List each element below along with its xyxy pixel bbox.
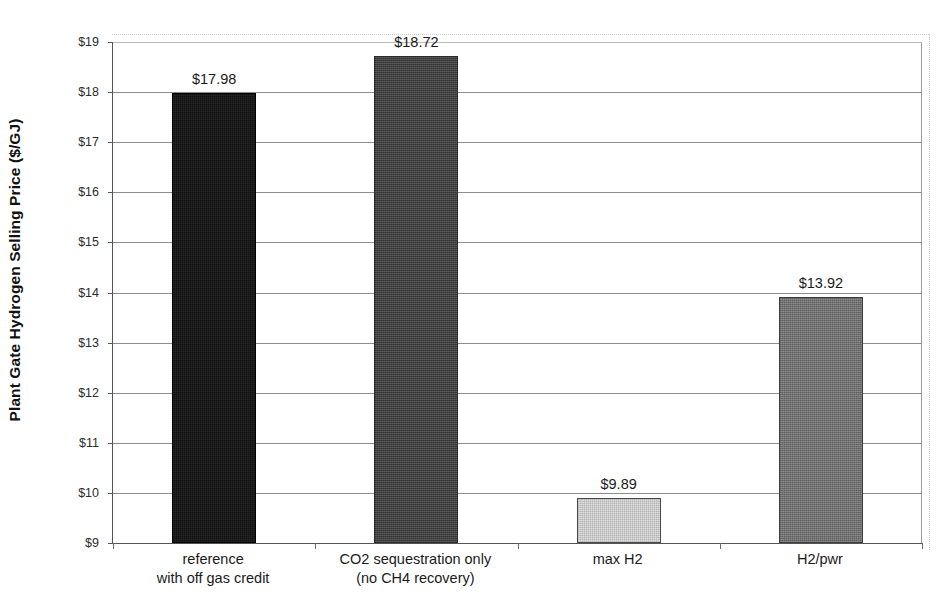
x-category-label-line2: (no CH4 recovery) xyxy=(340,569,492,588)
x-tick-mark xyxy=(922,543,923,549)
x-category-label: CO2 sequestration only(no CH4 recovery) xyxy=(340,550,492,588)
y-tick-mark xyxy=(108,92,113,93)
y-tick-label: $12 xyxy=(55,386,99,400)
y-tick-label: $15 xyxy=(55,235,99,249)
x-tick-mark xyxy=(113,543,114,549)
bar xyxy=(172,93,256,543)
y-tick-label: $17 xyxy=(55,135,99,149)
y-tick-label: $10 xyxy=(55,486,99,500)
y-tick-mark xyxy=(108,242,113,243)
bar xyxy=(374,56,458,543)
bar-value-label: $9.89 xyxy=(600,476,636,492)
x-category-label-line1: H2/pwr xyxy=(797,550,843,569)
y-tick-label: $13 xyxy=(55,336,99,350)
x-category-label-line2: with off gas credit xyxy=(157,569,270,588)
bar-value-label: $13.92 xyxy=(799,275,843,291)
x-category-label-line1: max H2 xyxy=(593,550,643,569)
y-tick-label: $19 xyxy=(55,35,99,49)
bar-chart-figure: Plant Gate Hydrogen Selling Price ($/GJ)… xyxy=(0,0,947,616)
y-tick-mark xyxy=(108,493,113,494)
bar-value-label: $17.98 xyxy=(192,71,236,87)
y-tick-label: $11 xyxy=(55,436,99,450)
y-axis-title-text: Plant Gate Hydrogen Selling Price ($/GJ) xyxy=(6,119,24,422)
y-tick-mark xyxy=(108,293,113,294)
bar-value-label: $18.72 xyxy=(394,34,438,50)
y-tick-mark xyxy=(108,142,113,143)
x-category-label-line1: CO2 sequestration only xyxy=(340,550,492,569)
x-tick-mark xyxy=(720,543,721,549)
y-tick-label: $9 xyxy=(55,536,99,550)
y-tick-mark xyxy=(108,343,113,344)
x-category-label: H2/pwr xyxy=(797,550,843,569)
x-category-label-line1: reference xyxy=(157,550,270,569)
y-axis-title: Plant Gate Hydrogen Selling Price ($/GJ) xyxy=(0,0,30,540)
y-tick-label: $16 xyxy=(55,185,99,199)
x-tick-mark xyxy=(518,543,519,549)
x-category-label: max H2 xyxy=(593,550,643,569)
plot-outer-top-border xyxy=(112,34,929,35)
plot-area: $9$10$11$12$13$14$15$16$17$18$19 $17.98$… xyxy=(112,42,922,544)
x-tick-mark xyxy=(315,543,316,549)
gridline xyxy=(113,42,922,43)
y-tick-mark xyxy=(108,192,113,193)
plot-outer-right-border xyxy=(929,34,930,550)
y-tick-label: $18 xyxy=(55,85,99,99)
bar xyxy=(779,297,863,543)
y-tick-mark xyxy=(108,393,113,394)
y-tick-mark xyxy=(108,443,113,444)
y-tick-mark xyxy=(108,42,113,43)
y-tick-label: $14 xyxy=(55,286,99,300)
x-category-label: referencewith off gas credit xyxy=(157,550,270,588)
bar xyxy=(577,498,661,543)
